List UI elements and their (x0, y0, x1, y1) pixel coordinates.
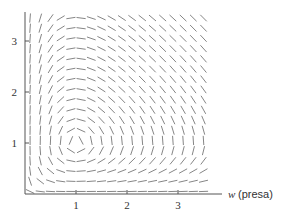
slope-segment (121, 136, 122, 144)
x-axis-variable: w (228, 188, 236, 200)
slope-segment (129, 56, 135, 61)
slope-segment (129, 96, 135, 102)
slope-segment (150, 86, 155, 92)
slope-segment (170, 46, 176, 52)
slope-segment (160, 158, 165, 164)
slope-segment (30, 65, 31, 73)
slope-segment (67, 17, 75, 18)
slope-segment (57, 26, 64, 30)
slope-segment (129, 76, 135, 82)
slope-segment (170, 66, 176, 72)
slope-segment (139, 15, 146, 20)
slope-segment (118, 16, 125, 21)
slope-segment (77, 58, 85, 59)
slope-segment (100, 147, 104, 154)
slope-segment (180, 66, 186, 72)
slope-segment (170, 158, 175, 164)
slope-segment (160, 15, 166, 21)
slope-segment (180, 46, 186, 52)
slope-segment (149, 36, 155, 42)
slope-segment (67, 109, 75, 111)
slope-segment (40, 116, 41, 124)
slope-segment (160, 86, 165, 93)
slope-segment (39, 75, 41, 83)
slope-segment (151, 116, 155, 123)
slope-segment (160, 66, 166, 72)
slope-segment (192, 116, 195, 124)
slope-segment (180, 56, 186, 62)
slope-segment (98, 97, 105, 102)
slope-segment (139, 158, 145, 164)
slope-segment (40, 146, 41, 154)
slope-segment (108, 67, 115, 72)
slope-segment (98, 16, 106, 20)
slope-segment (181, 106, 185, 113)
slope-segment (118, 26, 125, 31)
y-tick-label: 3 (12, 35, 18, 47)
slope-segment (139, 76, 145, 82)
slope-segment (130, 106, 135, 113)
slope-segment (39, 157, 41, 165)
slope-segment (201, 46, 207, 52)
slope-segment (67, 119, 75, 122)
slope-segment (108, 26, 115, 30)
slope-segment (30, 14, 31, 22)
slope-segment (119, 77, 125, 82)
slope-segment (200, 169, 207, 173)
slope-segment (182, 147, 184, 155)
slope-segment (201, 56, 207, 62)
slope-segment (37, 179, 44, 184)
slope-segment (39, 85, 41, 93)
slope-segment (108, 181, 116, 182)
slope-segment (141, 126, 144, 134)
slope-segment (119, 46, 126, 51)
slope-segment (191, 96, 196, 103)
slope-segment (98, 47, 105, 51)
slope-segment (171, 116, 175, 124)
slope-segment (67, 171, 75, 172)
slope-segment (201, 76, 206, 83)
slope-segment (203, 136, 204, 144)
slope-segment (108, 16, 115, 20)
slope-segment (180, 25, 186, 31)
slope-segment (57, 158, 64, 163)
slope-segment (108, 77, 115, 82)
slope-segment (67, 78, 75, 80)
slope-segment (57, 16, 64, 20)
slope-segment (180, 76, 185, 83)
slope-segment (49, 157, 53, 164)
slope-segment (152, 136, 153, 144)
slope-segment (77, 149, 84, 153)
slope-segment (172, 126, 174, 134)
slope-segment (48, 25, 53, 32)
slope-segment (192, 147, 194, 155)
slope-segment (40, 126, 41, 134)
slope-segment (138, 180, 146, 182)
slope-segment (170, 96, 175, 103)
slope-segment (140, 116, 144, 123)
slope-segment (67, 48, 75, 49)
slope-segment (118, 181, 126, 182)
slope-segment (119, 66, 126, 71)
slope-segment (77, 89, 85, 90)
slope-segment (77, 48, 85, 49)
slope-segment (109, 97, 115, 103)
slope-segment (39, 34, 41, 42)
slope-segment (30, 55, 31, 63)
slope-segment (170, 25, 176, 31)
slope-segment (131, 147, 134, 155)
slope-field-segments (26, 14, 207, 193)
slope-segment (67, 99, 75, 101)
slope-segment (181, 86, 186, 93)
slope-segment (48, 15, 53, 22)
slope-segment (179, 169, 186, 173)
x-tick-label: 3 (175, 199, 181, 211)
slope-segment (129, 36, 136, 41)
slope-segment (139, 36, 145, 41)
slope-segment (180, 35, 186, 41)
slope-segment (150, 96, 155, 103)
slope-segment (132, 136, 133, 144)
slope-segment (48, 76, 52, 83)
slope-segment (67, 89, 75, 91)
slope-segment (39, 24, 41, 32)
